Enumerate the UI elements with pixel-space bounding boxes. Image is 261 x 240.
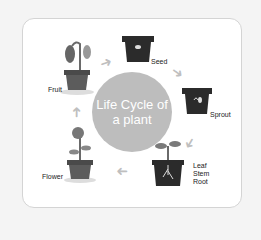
fruit-pot-icon bbox=[60, 38, 94, 96]
root-pot-icon bbox=[150, 140, 186, 188]
flower-pot-icon bbox=[64, 124, 96, 184]
sprout-label: Sprout bbox=[210, 111, 231, 119]
seed-label: Seed bbox=[151, 58, 167, 66]
seed-pot-icon bbox=[122, 36, 154, 64]
root-label: Root bbox=[193, 178, 208, 186]
title-line1: Life Cycle of bbox=[96, 97, 168, 112]
arrow-root-to-flower-icon: ➜ bbox=[116, 164, 128, 180]
title-line2: a plant bbox=[112, 112, 151, 127]
sprout-pot-icon bbox=[182, 88, 212, 116]
flower-label: Flower bbox=[42, 173, 63, 181]
arrow-flower-to-fruit-icon: ➜ bbox=[68, 106, 84, 118]
fruit-label: Fruit bbox=[48, 86, 62, 94]
stem-label: Stem bbox=[193, 170, 209, 178]
leaf-label: Leaf bbox=[193, 162, 207, 170]
